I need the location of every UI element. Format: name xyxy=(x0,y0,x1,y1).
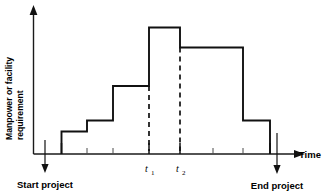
x-axis-ticks xyxy=(62,143,271,154)
start-project-label: Start project xyxy=(17,179,74,190)
end-project-label: End project xyxy=(251,180,304,191)
x-axis xyxy=(34,150,306,158)
y-axis-label-line1: Manpower or facility xyxy=(4,57,14,140)
y-axis-arrowhead xyxy=(30,5,38,15)
start-arrow-head xyxy=(41,164,48,173)
y-axis-label-line2: requirement xyxy=(15,90,25,140)
t2-label-subscript: 2 xyxy=(182,169,186,177)
t1-label: t xyxy=(145,163,148,174)
t1-label-group: t 1 xyxy=(145,163,155,177)
step-curve xyxy=(62,28,271,155)
t2-label: t xyxy=(176,163,179,174)
y-axis xyxy=(30,5,38,154)
x-axis-label: Time xyxy=(299,149,321,160)
end-arrow-head xyxy=(273,165,280,174)
t2-label-group: t 2 xyxy=(176,163,186,177)
start-project-marker xyxy=(41,140,48,173)
t1-label-subscript: 1 xyxy=(151,169,155,177)
chart-canvas: Manpower or facility requirement Time t … xyxy=(0,0,335,194)
resource-histogram-figure: Manpower or facility requirement Time t … xyxy=(0,0,335,194)
